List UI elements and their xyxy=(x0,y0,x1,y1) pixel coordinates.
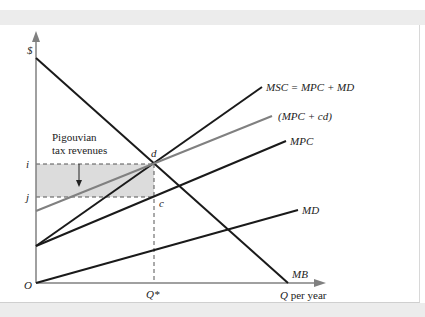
x-axis-arrow-icon xyxy=(314,279,326,287)
pigouvian-tax-diagram: $ O i j Q* Q per year d c MSC = MPC + MD… xyxy=(0,0,425,317)
x-axis-label-rest: per year xyxy=(288,289,327,301)
annotation-line2: tax revenues xyxy=(52,144,107,156)
msc-label: MSC = MPC + MD xyxy=(265,81,354,93)
mpc-label: MPC xyxy=(289,135,314,147)
x-axis-label: Q per year xyxy=(280,289,327,301)
tick-label-j: j xyxy=(24,191,29,203)
annotation-line1: Pigouvian xyxy=(52,131,97,143)
md-curve xyxy=(36,210,298,283)
md-label: MD xyxy=(301,204,319,216)
tax-revenue-region xyxy=(36,164,154,197)
tick-label-qstar: Q* xyxy=(146,288,160,300)
point-label-d: d xyxy=(151,147,157,159)
point-label-c: c xyxy=(159,197,164,209)
mb-label: MB xyxy=(291,268,308,280)
x-axis-label-q: Q xyxy=(280,289,288,301)
y-axis-arrow-icon xyxy=(32,31,40,42)
origin-label: O xyxy=(24,279,32,291)
y-axis-label: $ xyxy=(27,44,33,56)
mpc-plus-cd-label: (MPC + cd) xyxy=(278,110,332,123)
tick-label-i: i xyxy=(26,158,29,170)
